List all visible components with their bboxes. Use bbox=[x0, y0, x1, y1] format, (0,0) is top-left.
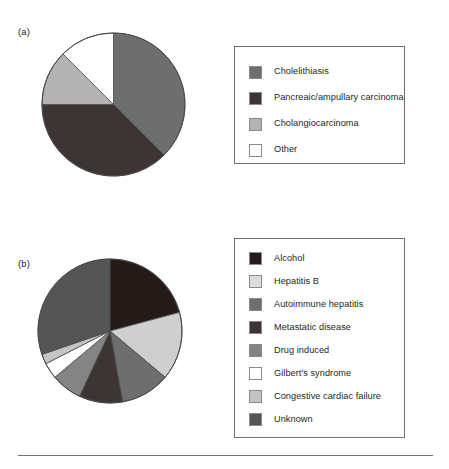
legend-b-swatch-7 bbox=[249, 413, 262, 426]
legend-b-swatch-6 bbox=[249, 390, 262, 403]
footer-divider bbox=[18, 455, 433, 456]
legend-b-item[interactable]: Drug induced bbox=[249, 339, 404, 362]
legend-b-swatch-1 bbox=[249, 275, 262, 288]
legend-b-item[interactable]: Alcohol bbox=[249, 247, 404, 270]
legend-b-label-1: Hepatitis B bbox=[274, 277, 319, 286]
legend-b-label-4: Drug induced bbox=[274, 346, 329, 355]
legend-b-label-7: Unknown bbox=[274, 415, 313, 424]
legend-b-swatch-3 bbox=[249, 321, 262, 334]
legend-b-item[interactable]: Metastatic disease bbox=[249, 316, 404, 339]
legend-b-list: AlcoholHepatitis BAutoimmune hepatitisMe… bbox=[235, 239, 404, 431]
legend-b-label-2: Autoimmune hepatitis bbox=[274, 300, 363, 309]
legend-b-item[interactable]: Congestive cardiac failure bbox=[249, 385, 404, 408]
legend-b-item[interactable]: Autoimmune hepatitis bbox=[249, 293, 404, 316]
legend-b-item[interactable]: Gilbert's syndrome bbox=[249, 362, 404, 385]
legend-b-label-5: Gilbert's syndrome bbox=[274, 369, 351, 378]
legend-b-swatch-0 bbox=[249, 252, 262, 265]
legend-b-item[interactable]: Hepatitis B bbox=[249, 270, 404, 293]
legend-b-label-0: Alcohol bbox=[274, 254, 304, 263]
legend-b-label-6: Congestive cardiac failure bbox=[274, 392, 381, 401]
legend-b: AlcoholHepatitis BAutoimmune hepatitisMe… bbox=[234, 238, 405, 438]
legend-b-swatch-4 bbox=[249, 344, 262, 357]
legend-b-label-3: Metastatic disease bbox=[274, 323, 351, 332]
legend-b-swatch-5 bbox=[249, 367, 262, 380]
legend-b-swatch-2 bbox=[249, 298, 262, 311]
legend-b-item[interactable]: Unknown bbox=[249, 408, 404, 431]
